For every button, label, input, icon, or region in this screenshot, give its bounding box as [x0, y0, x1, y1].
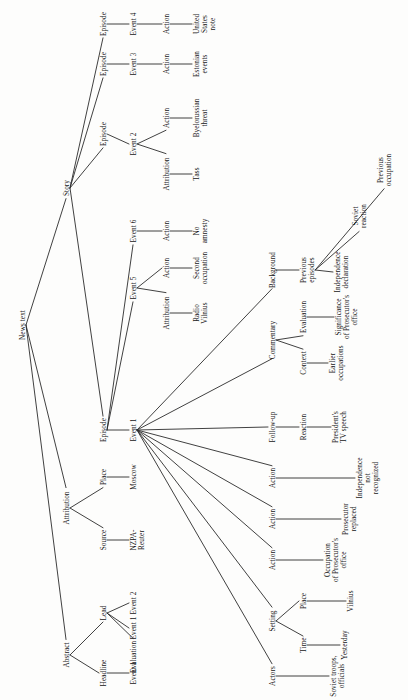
tree-node-label: United: [193, 14, 201, 34]
tree-node-event-5[interactable]: Event 5: [130, 276, 138, 299]
tree-node-label: President's: [332, 411, 340, 443]
tree-node-source[interactable]: Source: [100, 530, 108, 551]
tree-node-earlier-occupations[interactable]: Earlieroccupations: [329, 345, 345, 381]
tree-node-attribution-5[interactable]: Attribution: [163, 296, 171, 329]
tree-node-label: Abstract: [63, 642, 71, 667]
tree-node-label: Event 6: [130, 219, 138, 242]
tree-node-headline-event-1[interactable]: Event 1: [130, 661, 138, 684]
tree-node-label: occupations: [337, 345, 345, 381]
tree-node-story[interactable]: Story: [63, 180, 71, 196]
tree-node-label: episodes: [308, 257, 316, 283]
tree-node-event-1[interactable]: Event 1: [130, 418, 138, 441]
tree-node-united-states-note[interactable]: UnitedStatesnote: [193, 14, 217, 34]
tree-node-news-text[interactable]: News text: [19, 310, 27, 340]
tree-node-label: Prosecutor: [342, 503, 350, 535]
tree-node-place[interactable]: Place: [100, 469, 108, 485]
tree-node-independence-not-recognized[interactable]: Independencenotrecognized: [356, 457, 380, 498]
tree-node-action-4[interactable]: Action: [163, 14, 171, 34]
tree-node-nzpa-reuter[interactable]: NZPA-Reuter: [130, 529, 146, 551]
tree-node-label: note: [209, 18, 217, 31]
tree-node-label: Event 4: [130, 12, 138, 35]
tree-node-independence-declaration[interactable]: Independencedeclaration: [334, 251, 350, 292]
tree-node-reaction[interactable]: Reaction: [300, 414, 308, 441]
tree-node-episode-4[interactable]: Episode: [100, 12, 108, 36]
tree-node-second-occupation[interactable]: Secondoccupation: [193, 251, 209, 284]
tree-node-tass[interactable]: Tass: [193, 167, 201, 180]
tree-node-event-4[interactable]: Event 4: [130, 12, 138, 35]
tree-node-moscow[interactable]: Moscow: [130, 464, 138, 490]
tree-node-episode-3[interactable]: Episode: [100, 52, 108, 76]
tree-edge: [137, 144, 166, 154]
tree-node-presidents-tv-speech[interactable]: President'sTV speech: [332, 411, 348, 443]
tree-node-action-6[interactable]: Action: [163, 221, 171, 241]
tree-node-label: States: [201, 15, 209, 33]
tree-node-vilnius[interactable]: Vilnius: [347, 590, 355, 612]
tree-node-label: reaction: [360, 204, 368, 228]
tree-node-soviet-troops-officials[interactable]: Soviet troops,officials: [330, 655, 346, 696]
tree-node-action-3[interactable]: Action: [163, 54, 171, 74]
tree-node-label: Action: [269, 509, 277, 529]
tree-node-time[interactable]: Time: [300, 637, 308, 652]
tree-node-label: events: [201, 54, 209, 73]
tree-node-headline[interactable]: Headline: [100, 660, 108, 687]
tree-node-e1-action-b[interactable]: Action: [269, 509, 277, 529]
tree-edge: [137, 130, 166, 144]
tree-node-label: Lead: [100, 605, 108, 620]
tree-node-label: threat: [201, 110, 209, 127]
tree-node-episode-2[interactable]: Episode: [100, 122, 108, 146]
tree-node-prosecutor-replaced[interactable]: Prosecutorreplaced: [342, 503, 358, 535]
tree-node-attribution-2[interactable]: Attribution: [163, 157, 171, 190]
tree-node-episode-1[interactable]: Episode: [100, 418, 108, 442]
tree-edge: [70, 655, 99, 673]
tree-node-label: Event 1: [130, 616, 138, 639]
tree-node-event-3[interactable]: Event 3: [130, 52, 138, 75]
tree-node-setting[interactable]: Setting: [269, 610, 277, 631]
tree-node-context[interactable]: Context: [300, 351, 308, 374]
tree-node-e1-action-a[interactable]: Action: [269, 468, 277, 488]
tree-node-actors[interactable]: Actors: [269, 666, 277, 686]
tree-node-e1-action-c[interactable]: Action: [269, 550, 277, 570]
tree-node-label: Actors: [269, 666, 277, 686]
tree-node-event-2[interactable]: Event 2: [130, 132, 138, 155]
tree-node-follow-up[interactable]: Follow-up: [269, 411, 277, 442]
tree-node-label: Estonian: [193, 51, 201, 77]
tree-node-soviet-reaction[interactable]: Sovietreaction: [352, 204, 368, 228]
tree-node-lead-event-1[interactable]: Event 1: [130, 616, 138, 639]
tree-node-byelorussian-threat[interactable]: Byelorussianthreat: [193, 98, 209, 137]
tree-node-background[interactable]: Background: [269, 252, 277, 288]
tree-node-label: Episode: [100, 122, 108, 146]
tree-edge: [276, 601, 299, 621]
tree-node-occupation-prosecutor-office[interactable]: Occupationof Prosecutor'soffice: [324, 538, 348, 582]
tree-edge: [137, 268, 162, 288]
tree-node-radio-vilnius[interactable]: RadioVilnius: [193, 302, 209, 324]
tree-node-place-2[interactable]: Place: [300, 593, 308, 609]
tree-node-estonian-events[interactable]: Estonianevents: [193, 51, 209, 77]
tree-node-label: Soviet troops,: [330, 655, 338, 696]
tree-node-label: of Prosecutor's: [332, 538, 340, 582]
tree-node-commentary[interactable]: Commentary: [269, 320, 277, 359]
tree-node-lead[interactable]: Lead: [100, 605, 108, 620]
tree-edge: [137, 430, 272, 607]
tree-node-sig-prosecutor-office[interactable]: Significanceof Prosecutor'soffice: [335, 295, 359, 339]
tree-node-label: Follow-up: [269, 411, 277, 442]
tree-node-event-6[interactable]: Event 6: [130, 219, 138, 242]
tree-node-evaluation[interactable]: Evaluation: [300, 301, 308, 333]
tree-node-label: Soviet: [352, 207, 360, 226]
tree-node-label: Tass: [193, 167, 201, 180]
tree-node-label: Vilnius: [347, 590, 355, 612]
tree-node-label: Source: [100, 530, 108, 551]
tree-node-yesterday[interactable]: Yesterday: [341, 630, 349, 660]
tree-node-label: Action: [163, 221, 171, 241]
tree-node-abstract[interactable]: Abstract: [63, 642, 71, 667]
tree-node-action-2[interactable]: Action: [163, 108, 171, 128]
tree-node-no-amnesty[interactable]: Noamnesty: [193, 218, 209, 243]
tree-edge: [137, 288, 166, 293]
tree-node-action-5[interactable]: Action: [163, 258, 171, 278]
tree-node-previous-occupation[interactable]: Previousoccupation: [377, 153, 393, 186]
tree-node-attribution-top[interactable]: Attribution: [63, 491, 71, 524]
tree-node-label: Independence: [356, 457, 364, 498]
tree-edge: [107, 613, 129, 628]
tree-node-lead-event-2[interactable]: Event 2: [130, 591, 138, 614]
tree-node-previous-episodes[interactable]: Previousepisodes: [300, 257, 316, 283]
tree-node-label: Previous: [377, 157, 385, 183]
